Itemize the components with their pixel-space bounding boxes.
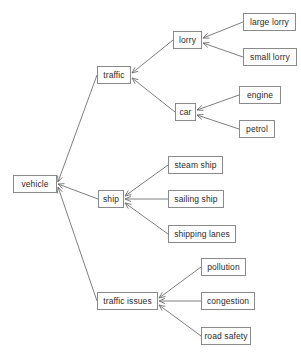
edge-small-lorry-to-lorry <box>203 43 243 57</box>
node-shipping-lanes[interactable]: shipping lanes <box>168 225 236 243</box>
node-label: congestion <box>207 297 249 306</box>
edge-lorry-to-traffic <box>132 40 173 73</box>
node-lorry[interactable]: lorry <box>173 31 202 49</box>
node-label: large lorry <box>250 18 289 27</box>
node-label: steam ship <box>174 161 216 170</box>
node-engine[interactable]: engine <box>239 86 281 104</box>
node-petrol[interactable]: petrol <box>239 120 275 138</box>
edge-car-to-traffic <box>132 78 175 112</box>
node-ship[interactable]: ship <box>98 190 124 208</box>
node-label: sailing ship <box>174 195 217 204</box>
edge-traffic-to-vehicle <box>58 75 97 182</box>
edge-shipping-lanes-to-ship <box>125 203 168 234</box>
node-pollution[interactable]: pollution <box>201 258 246 276</box>
node-label: engine <box>247 91 273 100</box>
node-label: pollution <box>207 263 240 272</box>
edge-large-lorry-to-lorry <box>203 22 243 38</box>
node-car[interactable]: car <box>175 103 196 121</box>
edge-sailing-ship-to-ship <box>125 196 168 201</box>
edge-engine-to-car <box>197 95 239 110</box>
edge-road-safety-to-traffic-issues <box>159 305 201 336</box>
node-small-lorry[interactable]: small lorry <box>243 48 297 66</box>
edge-steam-ship-to-ship <box>125 165 168 196</box>
node-steam-ship[interactable]: steam ship <box>168 156 223 174</box>
node-label: small lorry <box>250 53 290 62</box>
node-congestion[interactable]: congestion <box>201 292 255 310</box>
node-traffic-issues[interactable]: traffic issues <box>97 292 158 310</box>
diagram-canvas: vehicletrafficshiptraffic issueslorrycar… <box>0 0 301 360</box>
node-label: lorry <box>179 36 196 45</box>
node-large-lorry[interactable]: large lorry <box>243 13 296 31</box>
node-road-safety[interactable]: road safety <box>201 327 251 345</box>
node-label: shipping lanes <box>174 230 230 239</box>
node-label: traffic <box>103 71 124 80</box>
node-label: vehicle <box>21 180 48 189</box>
edge-ship-to-vehicle <box>58 184 98 199</box>
edge-congestion-to-traffic-issues <box>159 298 201 303</box>
edge-petrol-to-car <box>197 114 239 129</box>
edge-pollution-to-traffic-issues <box>159 267 201 298</box>
node-label: petrol <box>246 125 268 134</box>
edge-traffic-issues-to-vehicle <box>57 187 97 301</box>
node-vehicle[interactable]: vehicle <box>13 175 57 193</box>
node-label: road safety <box>204 332 247 341</box>
node-label: car <box>179 108 191 117</box>
node-label: ship <box>103 195 119 204</box>
node-traffic[interactable]: traffic <box>97 66 131 84</box>
node-sailing-ship[interactable]: sailing ship <box>168 190 224 208</box>
node-label: traffic issues <box>103 297 151 306</box>
